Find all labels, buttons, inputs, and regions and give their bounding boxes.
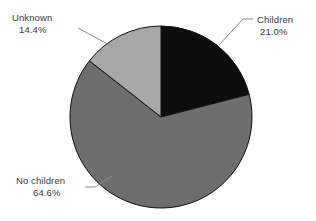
pie-label-children-value: 21.0% [257, 26, 293, 38]
pie-label-unknown: Unknown 14.4% [12, 12, 52, 36]
pie-label-unknown-name: Unknown [12, 12, 52, 24]
pie-label-no-children-value: 64.6% [16, 187, 65, 199]
pie-slices [70, 26, 252, 208]
pie-chart-figure: Unknown 14.4% Children 21.0% No children… [0, 0, 316, 221]
leader-line-unknown [78, 28, 113, 47]
pie-label-children-name: Children [257, 14, 293, 26]
pie-label-no-children-name: No children [16, 175, 65, 187]
pie-label-no-children: No children 64.6% [16, 175, 65, 199]
pie-label-children: Children 21.0% [257, 14, 293, 38]
pie-label-unknown-value: 14.4% [12, 24, 52, 36]
leader-line-children [219, 19, 253, 45]
